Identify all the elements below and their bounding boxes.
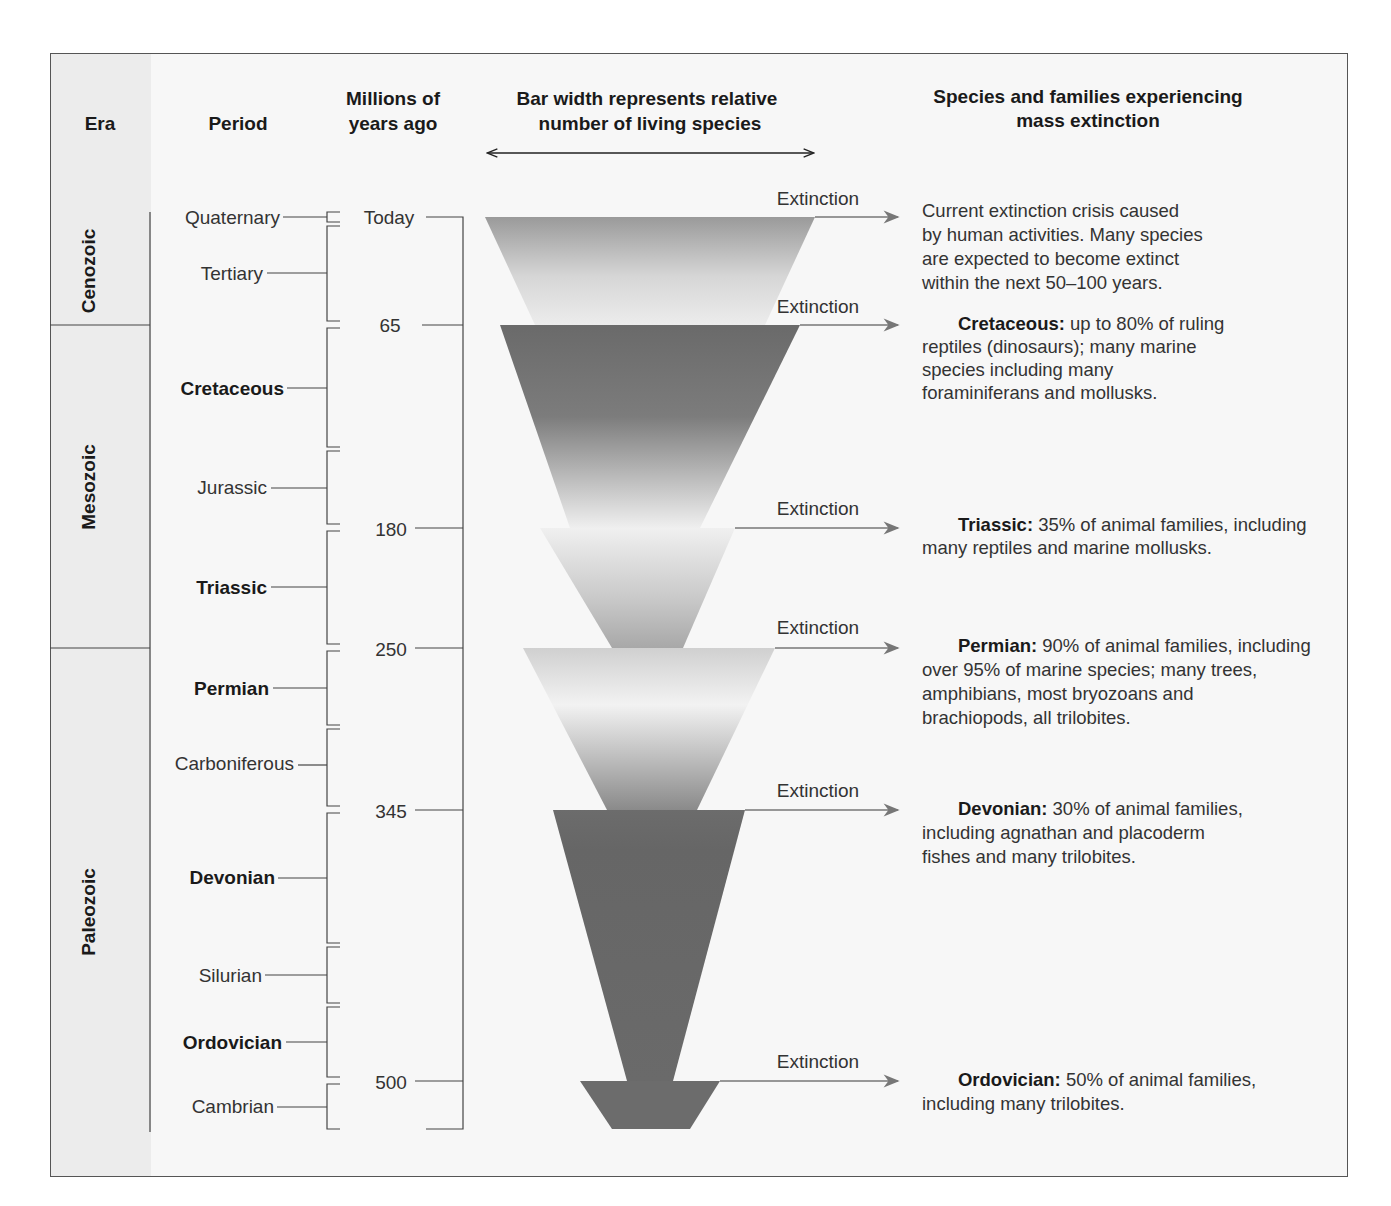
period-quaternary: Quaternary xyxy=(185,207,281,228)
bar-segment-cenozoic xyxy=(485,217,815,325)
period-silurian: Silurian xyxy=(199,965,262,986)
header-period: Period xyxy=(208,113,267,134)
period-list: Quaternary Tertiary Cretaceous Jurassic … xyxy=(175,207,327,1117)
bar-segment-cretaceous-jurassic xyxy=(500,325,800,528)
period-cretaceous: Cretaceous xyxy=(181,378,285,399)
time-65: 65 xyxy=(379,315,400,336)
bar-segment-triassic xyxy=(540,528,735,648)
extinction-descriptions: Current extinction crisis caused by huma… xyxy=(921,200,1347,1114)
extinction-label: Extinction xyxy=(777,617,859,638)
header-species-line2: mass extinction xyxy=(1016,110,1160,131)
time-500: 500 xyxy=(375,1072,407,1093)
period-tertiary: Tertiary xyxy=(201,263,264,284)
desc-cretaceous: Cretaceous: up to 80% of ruling reptiles… xyxy=(922,313,1260,403)
period-triassic: Triassic xyxy=(196,577,267,598)
period-jurassic: Jurassic xyxy=(197,477,267,498)
header-bar-line2: number of living species xyxy=(539,113,762,134)
desc-devonian: Devonian: 30% of animal families, includ… xyxy=(922,798,1279,867)
time-scale: Today 65 180 250 345 500 xyxy=(364,207,463,1129)
period-brackets xyxy=(327,212,340,1129)
header-species-line1: Species and families experiencing xyxy=(933,86,1242,107)
bar-segment-devonian-ordovician xyxy=(553,810,745,1081)
time-today: Today xyxy=(364,207,415,228)
desc-current: Current extinction crisis caused by huma… xyxy=(921,200,1239,293)
extinction-label: Extinction xyxy=(777,1051,859,1072)
era-paleozoic: Paleozoic xyxy=(78,868,99,956)
period-devonian: Devonian xyxy=(189,867,275,888)
diversity-bar xyxy=(485,217,815,1129)
desc-permian: Permian: 90% of animal families, includi… xyxy=(922,635,1347,728)
period-ordovician: Ordovician xyxy=(183,1032,282,1053)
era-cenozoic: Cenozoic xyxy=(78,228,99,313)
header-mya-line2: years ago xyxy=(349,113,438,134)
extinction-label: Extinction xyxy=(777,780,859,801)
extinction-label: Extinction xyxy=(777,188,859,209)
era-mesozoic: Mesozoic xyxy=(78,444,99,530)
extinction-diagram: Era Period Millions of years ago Bar wid… xyxy=(0,0,1391,1206)
time-250: 250 xyxy=(375,639,407,660)
time-345: 345 xyxy=(375,801,407,822)
desc-ordovician: Ordovician: 50% of animal families, incl… xyxy=(922,1069,1292,1114)
bar-segment-cambrian xyxy=(580,1081,720,1129)
period-permian: Permian xyxy=(194,678,269,699)
desc-triassic: Triassic: 35% of animal families, includ… xyxy=(922,514,1343,558)
header-bar-line1: Bar width represents relative xyxy=(517,88,778,109)
bar-segment-permian-carboniferous xyxy=(523,648,775,810)
period-cambrian: Cambrian xyxy=(192,1096,274,1117)
period-carboniferous: Carboniferous xyxy=(175,753,294,774)
time-180: 180 xyxy=(375,519,407,540)
extinction-label: Extinction xyxy=(777,296,859,317)
header-mya-line1: Millions of xyxy=(346,88,441,109)
header-era: Era xyxy=(85,113,116,134)
extinction-label: Extinction xyxy=(777,498,859,519)
